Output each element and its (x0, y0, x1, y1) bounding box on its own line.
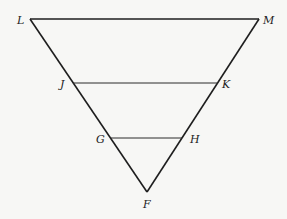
label-L: L (16, 14, 24, 27)
label-M: M (262, 14, 275, 27)
label-G: G (96, 133, 105, 146)
label-F: F (142, 198, 151, 211)
segment-LF (30, 19, 147, 192)
label-K: K (221, 78, 231, 91)
label-J: J (58, 78, 65, 91)
segment-MF (147, 19, 259, 192)
label-H: H (189, 133, 200, 146)
triangle-diagram: L M J K G H F (0, 0, 287, 219)
